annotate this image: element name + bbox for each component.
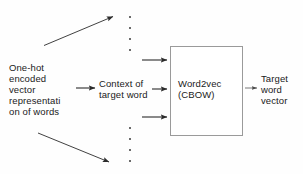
arrow-input-to-upper-ellipsis — [44, 17, 113, 46]
target-word-vector-label: Target word vector — [261, 73, 301, 106]
ellipsis-dot-upper — [129, 27, 131, 29]
context-of-target-word-label: Context of target word — [99, 78, 155, 100]
ellipsis-dot-upper — [129, 38, 131, 40]
ellipsis-dot-upper — [129, 16, 131, 18]
word2vec-cbow-label: Word2vec (CBOW) — [178, 78, 240, 100]
ellipsis-dot-lower — [129, 127, 131, 129]
word2vec-cbow-diagram: One-hot encoded vector representati on o… — [0, 0, 303, 174]
ellipsis-dot-lower — [129, 149, 131, 151]
input-representation-label: One-hot encoded vector representati on o… — [9, 62, 81, 117]
arrow-input-to-lower-ellipsis — [38, 133, 109, 162]
ellipsis-dot-lower — [129, 160, 131, 162]
ellipsis-dot-upper — [129, 49, 131, 51]
ellipsis-dot-lower — [129, 138, 131, 140]
